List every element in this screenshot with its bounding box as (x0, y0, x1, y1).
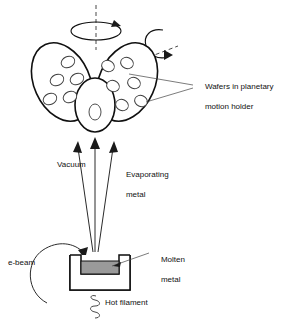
label-hot-filament: Hot filament (105, 298, 148, 308)
wafer (89, 104, 101, 120)
label-molten-line2: metal (161, 275, 181, 284)
label-molten-line1: Molten (161, 255, 185, 264)
label-molten-metal: Molten metal (152, 245, 185, 295)
flux-arrowhead-left (73, 141, 82, 153)
flux-arrowhead-center (90, 137, 100, 149)
flux-arrow-right (98, 148, 113, 252)
label-wafers-line2: motion holder (205, 102, 253, 111)
label-evaporating-line1: Evaporating (126, 170, 169, 179)
molten-metal-pool (81, 261, 119, 274)
label-vacuum: Vacuum (57, 160, 86, 170)
label-wafers-in-planetary-motion-holder: Wafers in planetary motion holder (196, 72, 274, 122)
main-rotation-arrowhead-icon (111, 20, 121, 27)
label-evaporating-line2: metal (126, 190, 146, 199)
flux-arrowhead-right (109, 141, 118, 153)
label-e-beam: e-beam (8, 258, 35, 268)
hot-filament-coil-icon (91, 296, 100, 318)
evaporation-system-diagram: Wafers in planetary motion holder Vacuum… (0, 0, 292, 327)
label-wafers-line1: Wafers in planetary (205, 82, 274, 91)
planet-rotation-arrowhead-icon (164, 50, 173, 60)
label-evaporating-metal: Evaporating metal (117, 160, 169, 210)
